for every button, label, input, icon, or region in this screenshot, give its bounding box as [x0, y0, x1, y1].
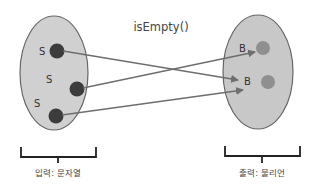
output-dot: [256, 41, 270, 55]
input-dot: [70, 82, 85, 97]
output-dot: [261, 75, 275, 89]
output-caption: 출력: 불리언: [239, 168, 285, 178]
output-element-label: B: [239, 43, 246, 54]
input-element-label: S: [34, 98, 40, 109]
input-element-label: S: [39, 46, 45, 57]
mapping-arrow: [63, 51, 238, 80]
output-element-label: B: [244, 76, 251, 87]
input-dot: [49, 109, 64, 124]
function-mapping-diagram: isEmpty() S S S B B 입력: 문자열 출력: 불리언: [0, 0, 318, 191]
output-ellipse: [223, 15, 293, 129]
input-element-label: S: [46, 74, 52, 85]
input-dot: [50, 44, 65, 59]
output-set: B B: [223, 15, 293, 129]
output-bracket: [225, 146, 300, 163]
mapping-arrow: [62, 90, 243, 115]
function-label: isEmpty(): [133, 20, 188, 34]
input-caption: 입력: 문자열: [35, 168, 81, 178]
input-bracket: [21, 147, 96, 163]
